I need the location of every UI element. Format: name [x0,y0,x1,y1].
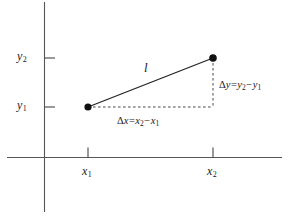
y-axis-tick-label-y2: y2 [17,50,27,64]
delta-x-term2-subscript: 1 [155,119,159,128]
delta-y-minus: − [246,79,253,90]
delta-y-annotation: Δy=y2−y1 [219,80,261,92]
delta-x-delta-symbol: Δ [117,115,124,126]
x2-variable: x [207,164,212,178]
delta-x-minus: − [144,115,151,126]
delta-y-term2-subscript: 1 [257,83,261,92]
y2-variable: y [17,49,22,63]
y2-subscript: 2 [23,55,27,64]
point-p2-marker [209,54,217,62]
y1-variable: y [17,98,22,112]
delta-y-delta-symbol: Δ [219,79,226,90]
figure-canvas [0,0,289,219]
x1-subscript: 1 [88,170,92,179]
x-axis-tick-label-x2: x2 [207,165,217,179]
x2-subscript: 2 [213,170,217,179]
x-axis-tick-label-x1: x1 [82,165,92,179]
point-p1-marker [84,103,91,110]
segment-length-label: l [144,61,148,74]
y-axis-tick-label-y1: y1 [17,99,27,113]
hypotenuse-line [88,58,213,107]
distance-formula-figure: y2 y1 x1 x2 l Δy=y2−y1 Δx=x2−x1 [0,0,289,219]
y1-subscript: 1 [23,104,27,113]
x1-variable: x [82,164,87,178]
delta-x-annotation: Δx=x2−x1 [117,116,159,128]
